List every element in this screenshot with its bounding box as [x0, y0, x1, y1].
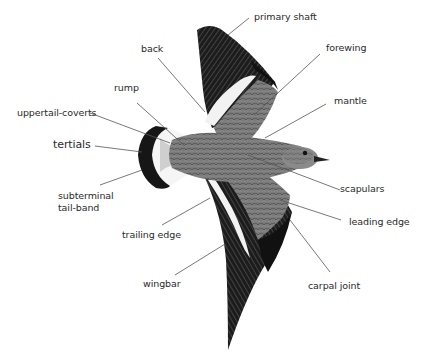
label-rump: rump: [114, 82, 139, 94]
label-subterminal-tail-band: subterminal tail-band: [58, 190, 114, 214]
bird-illustration: [0, 0, 422, 364]
lower-wing: [205, 164, 292, 350]
label-scapulars: scapulars: [340, 183, 384, 195]
label-forewing: forewing: [326, 42, 366, 54]
label-carpal-joint: carpal joint: [308, 280, 360, 292]
label-subterminal-line1: subterminal: [58, 190, 114, 202]
label-back: back: [141, 43, 163, 55]
bill: [314, 156, 330, 162]
label-trailing-edge: trailing edge: [122, 229, 181, 241]
label-subterminal-line2: tail-band: [58, 202, 114, 214]
label-wingbar: wingbar: [143, 278, 181, 290]
body: [169, 133, 330, 182]
label-leading-edge: leading edge: [349, 216, 410, 228]
label-tertials: tertials: [53, 139, 91, 151]
label-uppertail-coverts: uppertail-coverts: [17, 107, 96, 119]
eye: [303, 151, 307, 155]
label-mantle: mantle: [334, 95, 367, 107]
upper-wing: [197, 26, 278, 148]
bird-topography-diagram: primary shaft back forewing rump mantle …: [0, 0, 422, 364]
label-primary-shaft: primary shaft: [254, 11, 317, 23]
